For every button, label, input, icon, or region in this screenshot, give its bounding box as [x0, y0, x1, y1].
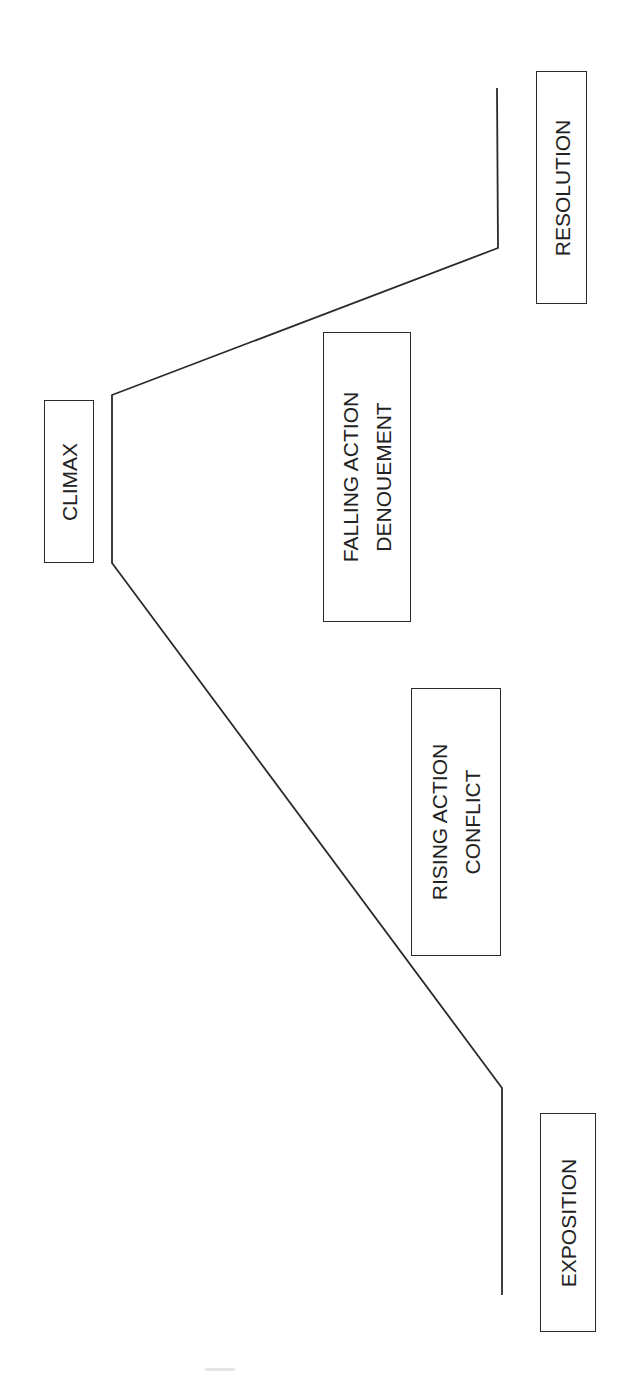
- rising-action-label: RISING ACTION CONFLICT: [423, 744, 489, 900]
- climax-box: CLIMAX: [44, 400, 94, 563]
- exposition-label: EXPOSITION: [552, 1158, 585, 1286]
- exposition-box: EXPOSITION: [540, 1113, 596, 1332]
- falling-action-label: FALLING ACTION DENOUEMENT: [334, 392, 400, 562]
- resolution-box: RESOLUTION: [536, 71, 587, 304]
- rising-action-box: RISING ACTION CONFLICT: [411, 688, 501, 956]
- climax-label: CLIMAX: [53, 442, 86, 520]
- resolution-label: RESOLUTION: [545, 119, 578, 256]
- falling-action-box: FALLING ACTION DENOUEMENT: [323, 332, 411, 622]
- page-number-artifact: [205, 1368, 235, 1371]
